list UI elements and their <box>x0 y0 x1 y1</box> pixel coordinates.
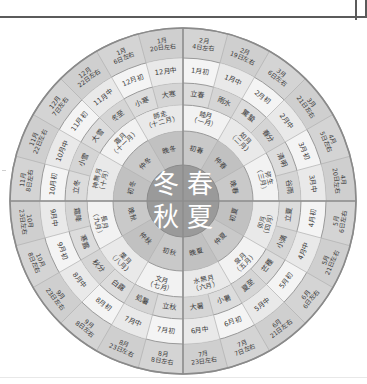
label-solar-term-23: 大寒 <box>161 89 176 100</box>
label-solar-term-5: 谷雨 <box>284 179 295 194</box>
page-border-right-stub <box>355 0 357 20</box>
label-solar-term-6: 立夏 <box>283 207 294 222</box>
label-solar-term-17: 霜降 <box>72 207 83 222</box>
label-solar-term-12: 立秋 <box>162 301 177 312</box>
page-bottom-rule <box>0 377 367 378</box>
page-left-tick <box>2 170 6 171</box>
label-solar-term-18: 立冬 <box>71 179 82 194</box>
label-solar-term-0: 立春 <box>190 89 205 100</box>
seasonal-wheel-diagram: 2月4日左右1月初立春2月19日左右1月中雨水3月6日左右2月初驚蟄3月21日左… <box>8 26 358 376</box>
center-season-bottom-right: 夏 <box>187 202 213 232</box>
page-border-frame <box>0 0 367 18</box>
seasonal-wheel-svg: 2月4日左右1月初立春2月19日左右1月中雨水3月6日左右2月初驚蟄3月21日左… <box>8 26 358 376</box>
center-season-top-right: 春 <box>187 169 213 199</box>
center-season-top-left: 冬 <box>153 169 179 199</box>
center-season-bottom-left: 秋 <box>153 202 179 232</box>
label-solar-term-11: 大暑 <box>189 301 204 312</box>
